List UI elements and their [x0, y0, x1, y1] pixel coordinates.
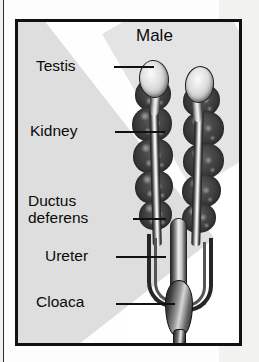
figure-panel: Male — [15, 19, 242, 346]
leader-line-kidney — [115, 131, 165, 133]
figure-title: Male — [136, 26, 173, 46]
leader-line-testis — [114, 66, 154, 68]
leader-line-ureter — [116, 256, 166, 258]
label-ductus-line1: Ductus — [28, 192, 88, 209]
cloaca-neck — [173, 329, 186, 346]
label-ductus-deferens: Ductus deferens — [28, 192, 88, 226]
anatomy-illustration — [123, 48, 239, 344]
label-testis: Testis — [36, 57, 76, 74]
label-ureter: Ureter — [45, 247, 88, 264]
leader-line-ductus-deferens — [133, 218, 166, 220]
label-cloaca: Cloaca — [36, 293, 84, 310]
figure-page: Male — [0, 0, 259, 362]
leader-line-cloaca — [116, 303, 175, 305]
cloaca — [165, 280, 193, 336]
label-ductus-line2: deferens — [28, 209, 88, 226]
label-kidney: Kidney — [30, 122, 77, 139]
page-gutter-line — [3, 0, 4, 362]
